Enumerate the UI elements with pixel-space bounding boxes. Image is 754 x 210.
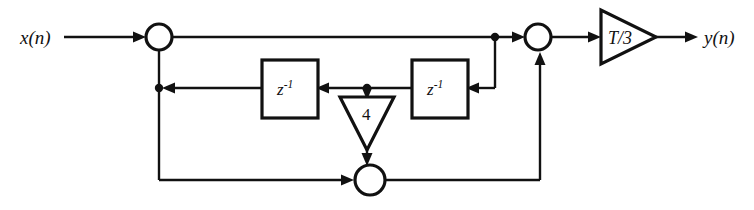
adder-feedback xyxy=(355,165,385,195)
adder-input xyxy=(146,24,172,50)
arrowhead-bottom-adder-left xyxy=(341,175,354,186)
output-label: y(n) xyxy=(702,27,735,49)
signal-flow-diagram: x(n) y(n) z-1 z-1 T/3 4 xyxy=(0,0,754,210)
adder-output xyxy=(525,24,551,50)
arrowhead-input-adder xyxy=(133,32,146,43)
arrowhead-output-adder-left xyxy=(512,32,525,43)
gain-output-label: T/3 xyxy=(608,28,632,48)
input-label: x(n) xyxy=(19,27,51,49)
gain-feedback-label: 4 xyxy=(362,105,371,124)
delay-right-exponent: -1 xyxy=(434,78,444,90)
arrowhead-gain-input xyxy=(588,32,601,43)
delay-left-exponent: -1 xyxy=(284,78,294,90)
arrowhead-output xyxy=(685,32,698,43)
flow-graph-canvas: x(n) y(n) z-1 z-1 T/3 4 xyxy=(0,0,754,210)
arrowhead-feedback-to-input xyxy=(162,83,175,94)
arrowhead-output-adder-bottom xyxy=(535,52,546,65)
